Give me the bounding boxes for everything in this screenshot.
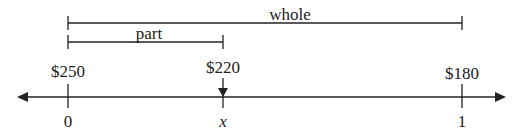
down-arrow-icon <box>218 88 228 97</box>
tick-x-value: x <box>219 113 227 130</box>
whole-label: whole <box>269 6 311 23</box>
tick-1-price: $180 <box>445 65 479 82</box>
left-arrow-icon <box>17 92 28 102</box>
whole-bracket <box>68 16 462 30</box>
right-arrow-icon <box>495 92 506 102</box>
tick-x-price: $220 <box>206 59 240 76</box>
tick-0-value: 0 <box>64 113 73 130</box>
tick-1-value: 1 <box>458 113 467 130</box>
part-label: part <box>136 25 162 42</box>
tick-0-price: $250 <box>51 63 85 80</box>
